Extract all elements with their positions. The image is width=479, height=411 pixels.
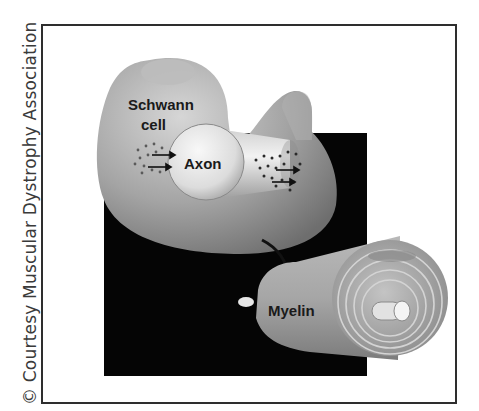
label-schwann: Schwann [128,96,194,113]
label-myelin: Myelin [268,302,315,319]
label-cell: cell [141,116,166,133]
schwann-cell-myelination-diagram: Schwann cell Axon Myelin [0,0,479,411]
label-axon: Axon [184,155,222,172]
